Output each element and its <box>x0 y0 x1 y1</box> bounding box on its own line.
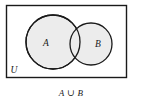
venn-diagram-figure: A B U A ∪ B <box>0 0 142 102</box>
venn-diagram-canvas: A B U A ∪ B <box>0 0 142 102</box>
set-a-label: A <box>42 38 49 48</box>
set-b-label: B <box>95 39 101 49</box>
figure-caption: A ∪ B <box>58 88 84 98</box>
universal-set-label: U <box>11 65 19 75</box>
